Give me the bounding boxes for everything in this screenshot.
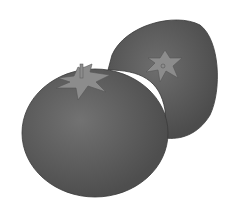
tomatoes-illustration (0, 0, 238, 222)
front-tomato (22, 64, 168, 197)
